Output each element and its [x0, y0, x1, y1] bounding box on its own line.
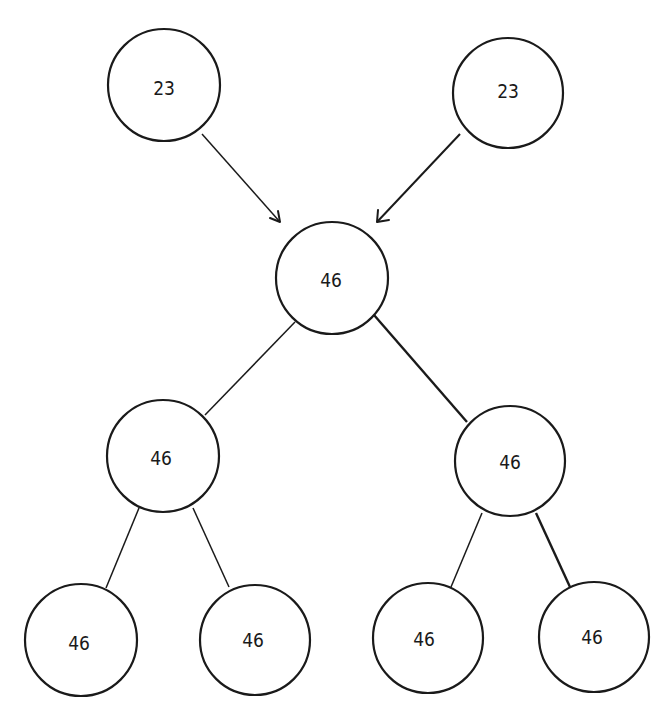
node-root: 46: [276, 222, 388, 334]
node-label: 23: [153, 77, 175, 99]
node-input-right: 23: [453, 38, 563, 148]
edge-mid-right-to-leaf-4: [536, 513, 570, 587]
node-label: 46: [499, 451, 521, 473]
node-label: 46: [242, 629, 264, 651]
edge-root-to-mid-left: [205, 322, 295, 415]
node-label: 46: [320, 269, 342, 291]
node-mid-right: 46: [455, 406, 565, 516]
node-leaf-3: 46: [373, 583, 483, 693]
edge-mid-left-to-leaf-1: [106, 508, 139, 588]
node-label: 46: [413, 628, 435, 650]
tree-diagram: 23 23 46 46 46 46 46 46 46: [0, 0, 672, 722]
edge-mid-right-to-leaf-3: [451, 513, 482, 587]
node-label: 46: [68, 632, 90, 654]
edge-mid-left-to-leaf-2: [193, 508, 229, 587]
node-leaf-4: 46: [539, 582, 649, 692]
node-label: 23: [497, 80, 519, 102]
node-mid-left: 46: [107, 400, 219, 512]
node-leaf-1: 46: [25, 584, 137, 696]
node-label: 46: [581, 626, 603, 648]
edge-root-to-mid-right: [374, 315, 467, 422]
arrow-input-left-to-root: [202, 134, 280, 222]
node-label: 46: [150, 447, 172, 469]
node-leaf-2: 46: [200, 585, 310, 695]
node-input-left: 23: [108, 29, 220, 141]
arrow-input-right-to-root: [377, 134, 460, 222]
